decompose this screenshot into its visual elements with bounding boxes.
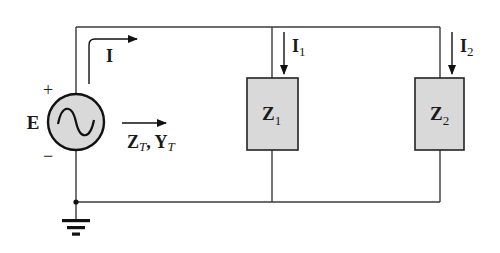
minus-sign: − [43, 146, 53, 166]
z1-main: Z [262, 103, 275, 124]
circuit-diagram: + E − I ZT, YT I1 Z1 I2 Z2 [0, 0, 500, 253]
ac-source [48, 94, 104, 150]
branch-2-current-label: I2 [460, 36, 474, 59]
yt-main: Y [155, 132, 168, 152]
i1-main: I [292, 36, 299, 56]
junction-dot [73, 199, 78, 204]
z2-main: Z [430, 103, 443, 124]
source-label: E [27, 112, 40, 133]
ground-icon [62, 219, 90, 236]
i2-sub: 2 [467, 44, 474, 59]
z1-sub: 1 [275, 113, 282, 128]
i2-main: I [460, 36, 467, 56]
plus-sign: + [43, 80, 53, 100]
zt-main: Z [127, 132, 139, 152]
total-current-label: I [106, 46, 113, 66]
separator: , [146, 132, 154, 152]
z2-sub: 2 [443, 113, 450, 128]
branch-1-current-label: I1 [292, 36, 306, 59]
yt-sub: T [168, 139, 176, 154]
i1-sub: 1 [299, 44, 306, 59]
total-impedance-label: ZT, YT [127, 132, 176, 154]
